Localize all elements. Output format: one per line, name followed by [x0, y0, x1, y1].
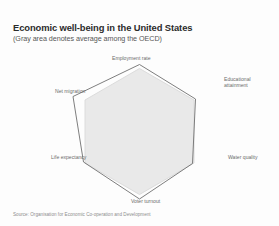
axis-label-net-migration: Net migration — [55, 88, 85, 94]
source-note: Source: Organisation for Economic Co-ope… — [13, 212, 151, 217]
axis-label-voter-turnout: Voter turnout — [131, 198, 160, 204]
axis-label-educational-attainment: Educational attainment — [224, 76, 266, 88]
chart-figure: Economic well-being in the United States… — [0, 0, 279, 226]
axis-label-life-expectancy: Life expectancy — [51, 154, 86, 160]
axis-label-employment-rate: Employment rate — [112, 55, 151, 61]
axis-label-water-quality: Water quality — [228, 154, 258, 160]
oecd-average-polygon — [85, 69, 194, 195]
radar-plot — [0, 0, 279, 226]
